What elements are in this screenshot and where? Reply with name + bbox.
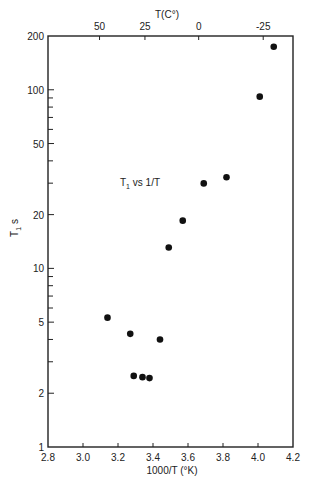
top-axis: 50250-25 — [94, 21, 271, 40]
data-points — [104, 44, 277, 382]
y-tick-label: 50 — [33, 139, 45, 150]
top-tick-label: 25 — [139, 21, 151, 32]
plot-frame — [48, 36, 293, 447]
data-point — [270, 44, 277, 51]
data-point — [157, 336, 164, 343]
x-tick-label: 3.4 — [146, 452, 160, 463]
data-point — [200, 180, 207, 187]
data-point — [256, 93, 263, 100]
y-tick-label: 200 — [27, 31, 44, 42]
y-tick-label: 5 — [38, 317, 44, 328]
y-axis-title-rest: s — [9, 219, 20, 227]
data-point — [139, 374, 146, 381]
y-tick-label: 10 — [33, 263, 45, 274]
top-tick-label: 0 — [196, 21, 202, 32]
data-point — [146, 375, 153, 382]
plot-border — [48, 36, 293, 447]
top-axis-title: T(C°) — [155, 9, 179, 20]
x-tick-label: 3.2 — [111, 452, 125, 463]
top-tick-label: 50 — [94, 21, 106, 32]
top-tick-label: -25 — [256, 21, 271, 32]
chart: 125102050100200 2.83.03.23.43.63.84.04.2… — [0, 0, 309, 487]
data-point — [130, 373, 137, 380]
data-point — [179, 217, 186, 224]
data-point — [223, 174, 230, 181]
x-axis: 2.83.03.23.43.63.84.04.2 — [41, 443, 300, 463]
y-axis: 125102050100200 — [27, 31, 54, 453]
y-tick-label: 100 — [27, 85, 44, 96]
x-tick-label: 4.2 — [286, 452, 300, 463]
data-point — [127, 331, 134, 338]
x-tick-label: 3.6 — [181, 452, 195, 463]
y-tick-label: 20 — [33, 210, 45, 221]
y-axis-title: T1 s — [9, 219, 22, 237]
x-tick-label: 4.0 — [251, 452, 265, 463]
data-point — [104, 314, 111, 321]
x-tick-label: 3.0 — [76, 452, 90, 463]
annotation-rest: vs 1/T — [130, 177, 160, 188]
y-tick-label: 2 — [38, 388, 44, 399]
x-tick-label: 3.8 — [216, 452, 230, 463]
plot-annotation: T1 vs 1/T — [120, 177, 160, 190]
x-axis-title: 1000/T (°K) — [146, 465, 197, 476]
data-point — [165, 244, 172, 251]
x-tick-label: 2.8 — [41, 452, 55, 463]
